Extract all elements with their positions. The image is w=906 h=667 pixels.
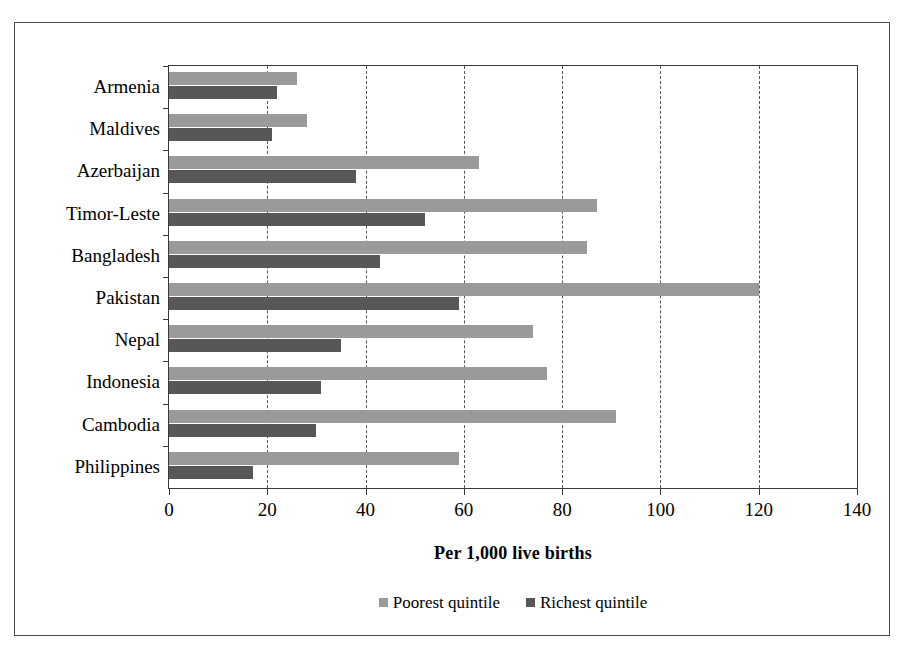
bar-richest-quintile xyxy=(169,170,356,183)
x-axis-tick-label: 140 xyxy=(843,500,872,519)
bar-poorest-quintile xyxy=(169,199,597,212)
y-axis-tick xyxy=(163,235,169,236)
bar-poorest-quintile xyxy=(169,325,533,338)
legend-swatch-icon xyxy=(526,598,535,607)
chart-row: Philippines xyxy=(169,446,857,488)
legend-swatch-icon xyxy=(379,598,388,607)
category-label: Cambodia xyxy=(82,415,160,434)
bar-poorest-quintile xyxy=(169,367,547,380)
category-label: Azerbaijan xyxy=(77,161,160,180)
bar-richest-quintile xyxy=(169,255,380,268)
legend-item: Poorest quintile xyxy=(379,593,500,613)
x-axis-tick xyxy=(366,488,367,495)
bar-poorest-quintile xyxy=(169,114,307,127)
y-axis-tick xyxy=(163,277,169,278)
bar-richest-quintile xyxy=(169,297,459,310)
x-axis-tick-label: 40 xyxy=(356,500,375,519)
category-label: Nepal xyxy=(115,330,160,349)
chart-row: Nepal xyxy=(169,319,857,361)
x-axis-tick xyxy=(660,488,661,495)
bar-poorest-quintile xyxy=(169,72,297,85)
x-axis-tick-label: 0 xyxy=(164,500,174,519)
category-label: Maldives xyxy=(89,119,160,138)
bar-richest-quintile xyxy=(169,213,425,226)
y-axis-tick xyxy=(163,446,169,447)
category-label: Bangladesh xyxy=(71,246,160,265)
category-label: Timor-Leste xyxy=(66,204,160,223)
plot-area: 020406080100120140ArmeniaMaldivesAzerbai… xyxy=(168,65,858,489)
x-axis-title: Per 1,000 live births xyxy=(168,543,858,564)
bar-richest-quintile xyxy=(169,339,341,352)
x-axis-tick-label: 20 xyxy=(258,500,277,519)
legend-label: Poorest quintile xyxy=(393,593,500,613)
bar-poorest-quintile xyxy=(169,156,479,169)
bar-richest-quintile xyxy=(169,381,321,394)
bar-poorest-quintile xyxy=(169,283,759,296)
bar-poorest-quintile xyxy=(169,452,459,465)
x-axis-tick-label: 100 xyxy=(646,500,675,519)
y-axis-tick xyxy=(163,108,169,109)
chart-row: Bangladesh xyxy=(169,235,857,277)
chart-row: Maldives xyxy=(169,108,857,150)
x-axis-tick xyxy=(464,488,465,495)
legend-item: Richest quintile xyxy=(526,593,647,613)
chart-row: Cambodia xyxy=(169,404,857,446)
bar-richest-quintile xyxy=(169,86,277,99)
bar-poorest-quintile xyxy=(169,241,587,254)
bar-richest-quintile xyxy=(169,424,316,437)
x-axis-tick-label: 60 xyxy=(454,500,473,519)
bar-richest-quintile xyxy=(169,466,253,479)
y-axis-tick xyxy=(163,66,169,67)
bar-richest-quintile xyxy=(169,128,272,141)
chart-row: Indonesia xyxy=(169,361,857,403)
category-label: Philippines xyxy=(74,457,160,476)
y-axis-tick xyxy=(163,193,169,194)
chart-row: Timor-Leste xyxy=(169,193,857,235)
y-axis-tick xyxy=(163,361,169,362)
x-axis-tick xyxy=(857,488,858,495)
x-axis-tick xyxy=(562,488,563,495)
x-axis-tick xyxy=(169,488,170,495)
legend-label: Richest quintile xyxy=(540,593,647,613)
chart-row: Armenia xyxy=(169,66,857,108)
x-axis-tick xyxy=(267,488,268,495)
x-axis-tick-label: 120 xyxy=(744,500,773,519)
y-axis-tick xyxy=(163,319,169,320)
x-axis-tick-label: 80 xyxy=(553,500,572,519)
category-label: Armenia xyxy=(94,77,160,96)
chart-figure: 020406080100120140ArmeniaMaldivesAzerbai… xyxy=(14,22,890,636)
chart-legend: Poorest quintileRichest quintile xyxy=(168,593,858,613)
y-axis-tick xyxy=(163,404,169,405)
chart-row: Azerbaijan xyxy=(169,150,857,192)
bar-poorest-quintile xyxy=(169,410,616,423)
x-axis-tick xyxy=(759,488,760,495)
category-label: Indonesia xyxy=(86,372,160,391)
chart-row: Pakistan xyxy=(169,277,857,319)
y-axis-tick xyxy=(163,150,169,151)
category-label: Pakistan xyxy=(96,288,160,307)
